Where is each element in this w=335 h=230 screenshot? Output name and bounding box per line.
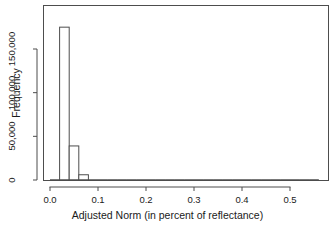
x-axis-title: Adjusted Norm (in percent of reflectance… — [0, 209, 335, 221]
y-tick-label: 100,000 — [5, 73, 19, 113]
x-tick-label: 0.0 — [30, 194, 70, 205]
y-tick-label: 50,000 — [5, 116, 19, 156]
x-tick-label: 0.5 — [270, 194, 310, 205]
x-tick-label: 0.2 — [126, 194, 166, 205]
histogram-bar — [60, 27, 70, 180]
x-tick-label: 0.3 — [174, 194, 214, 205]
histogram-bar — [79, 175, 89, 180]
histogram-figure: Adjusted Norm (in percent of reflectance… — [0, 0, 335, 230]
plot-border — [44, 6, 329, 181]
histogram-bar — [69, 146, 79, 180]
y-tick-label: 0 — [5, 160, 19, 200]
x-tick-label: 0.4 — [222, 194, 262, 205]
y-tick-label: 150,000 — [5, 29, 19, 69]
x-tick-label: 0.1 — [78, 194, 118, 205]
bar-series — [50, 27, 319, 180]
